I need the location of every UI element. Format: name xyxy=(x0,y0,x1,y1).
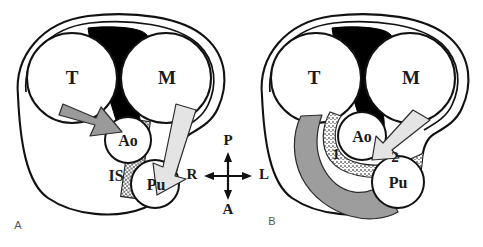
label-route-two-b: 2 xyxy=(391,149,399,165)
compass-label-left: L xyxy=(259,166,269,182)
panel-letter-a: A xyxy=(14,219,22,231)
panel-letter-b: B xyxy=(268,215,275,227)
label-mass-b: M xyxy=(402,67,420,88)
compass-label-anterior: A xyxy=(223,201,234,217)
label-route-one-b: 1 xyxy=(332,146,340,162)
figure-container: T M Ao Pu IS A P A R L xyxy=(0,0,483,247)
label-mass-a: M xyxy=(158,67,176,88)
label-trachea-b: T xyxy=(308,67,321,88)
label-pulmonary-a: Pu xyxy=(147,176,166,193)
label-trachea-a: T xyxy=(66,67,79,88)
compass-label-posterior: P xyxy=(223,132,232,148)
label-septum-a: IS xyxy=(108,167,123,184)
label-pulmonary-b: Pu xyxy=(389,174,408,191)
label-aorta-b: Ao xyxy=(352,128,372,145)
label-aorta-a: Ao xyxy=(118,132,138,149)
compass-label-right: R xyxy=(187,166,198,182)
anatomical-diagram: T M Ao Pu IS A P A R L xyxy=(0,0,483,247)
